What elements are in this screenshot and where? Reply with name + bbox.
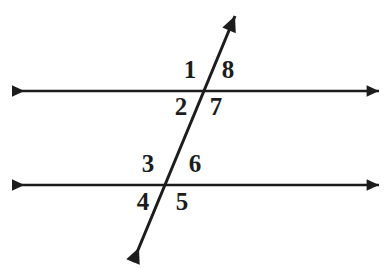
geometry-figure: 12345678 xyxy=(0,0,391,269)
angle-label-3: 3 xyxy=(137,151,159,176)
figure-canvas xyxy=(0,0,391,269)
angle-label-4: 4 xyxy=(132,189,154,214)
angle-label-7: 7 xyxy=(205,94,227,119)
transversal-line xyxy=(133,16,235,262)
angle-label-1: 1 xyxy=(179,57,201,82)
angle-label-2: 2 xyxy=(170,94,192,119)
angle-label-6: 6 xyxy=(184,151,206,176)
angle-label-5: 5 xyxy=(171,189,193,214)
angle-label-8: 8 xyxy=(217,57,239,82)
